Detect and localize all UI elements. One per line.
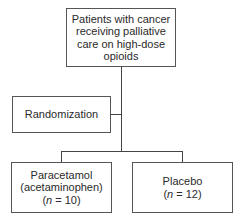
placebo-arm-box: Placebo (n = 12) (132, 162, 233, 213)
trunk-connector (121, 67, 122, 151)
placebo-count: (n = 12) (163, 188, 201, 201)
placebo-label: Placebo (163, 175, 203, 188)
branch-connector (61, 151, 183, 152)
paracetamol-count: (n = 10) (42, 194, 80, 207)
paracetamol-arm-box: Paracetamol (acetaminophen) (n = 10) (11, 162, 112, 213)
population-box: Patients with cancer receiving palliativ… (66, 8, 176, 67)
population-line-3: care on high-dose (77, 38, 165, 51)
paracetamol-alt-label: (acetaminophen) (20, 181, 103, 194)
placebo-n-value: = 12) (173, 188, 201, 200)
randomization-label: Randomization (25, 108, 98, 121)
paracetamol-n-value: = 10) (52, 194, 80, 206)
branch-right-drop (182, 151, 183, 162)
paracetamol-label: Paracetamol (31, 169, 93, 182)
branch-left-drop (61, 151, 62, 162)
randomization-connector (111, 114, 121, 115)
population-line-1: Patients with cancer (72, 13, 170, 26)
population-line-2: receiving palliative (76, 25, 166, 38)
population-line-4: opioids (104, 50, 139, 63)
randomization-box: Randomization (12, 96, 111, 133)
